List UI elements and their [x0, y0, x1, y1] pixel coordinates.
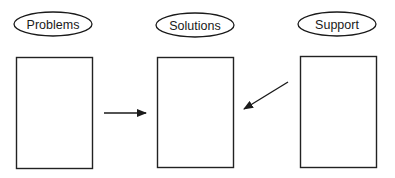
solutions-box: [158, 58, 234, 168]
problems-label: Problems: [27, 18, 80, 32]
support-box: [301, 57, 377, 168]
problems-box: [17, 58, 93, 169]
diagram-canvas: Problems Solutions Support: [0, 0, 395, 178]
node-solutions: Solutions: [156, 13, 234, 168]
arrow-support-to-solutions: [244, 82, 288, 109]
support-label: Support: [315, 18, 359, 32]
node-support: Support: [298, 12, 377, 168]
solutions-label: Solutions: [169, 19, 220, 33]
node-problems: Problems: [14, 12, 93, 169]
